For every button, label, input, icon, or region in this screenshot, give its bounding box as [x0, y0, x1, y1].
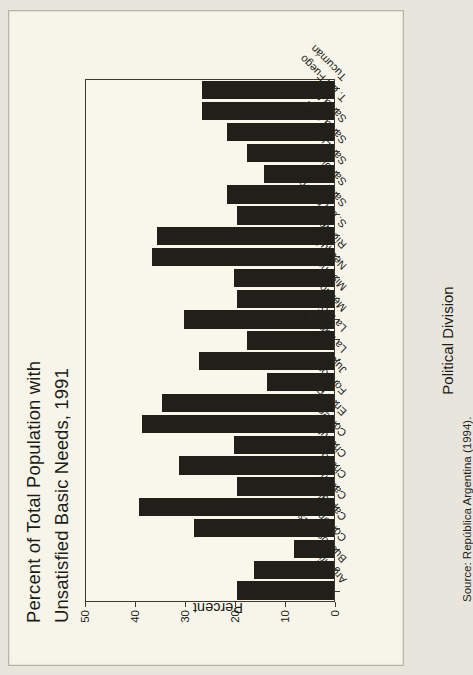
bar-cell: [86, 122, 334, 143]
bar-cell: [86, 497, 334, 518]
x-axis: Political Division ArgentinaBuenos Aires…: [335, 79, 455, 602]
y-axis-title: Percent: [153, 600, 283, 616]
x-tick: [335, 360, 340, 361]
bar: [152, 248, 335, 266]
x-tick: [335, 193, 340, 194]
bar-cell: [86, 455, 334, 476]
y-tick: [335, 602, 336, 607]
bar-cell: [86, 434, 334, 455]
x-tick: [335, 465, 340, 466]
x-tick: [335, 130, 340, 131]
x-tick: [335, 381, 340, 382]
chart-title-line-2: Unsatisfied Basic Needs, 1991: [51, 368, 73, 623]
bar-cell: [86, 268, 334, 289]
bar: [237, 581, 335, 599]
bar-cell: [86, 393, 334, 414]
x-tick: [335, 88, 340, 89]
x-tick: [335, 256, 340, 257]
x-tick: [335, 528, 340, 529]
bar-cell: [86, 226, 334, 247]
bar-cell: [86, 309, 334, 330]
bar-cell: [86, 330, 334, 351]
y-tick-label: 40: [129, 610, 141, 623]
bar-cell: [86, 476, 334, 497]
y-tick-label: 50: [79, 610, 91, 623]
x-tick: [335, 151, 340, 152]
bar-cell: [86, 580, 334, 601]
bar-cell: [86, 247, 334, 268]
bar-cell: [86, 205, 334, 226]
y-tick-label: 0: [329, 610, 341, 616]
y-tick: [285, 602, 286, 607]
bar-cell: [86, 372, 334, 393]
bar-cell: [86, 413, 334, 434]
bar-cell: [86, 559, 334, 580]
bar-cell: [86, 142, 334, 163]
x-tick: [335, 235, 340, 236]
source-note: Source: República Argentina (1994).: [461, 417, 473, 602]
chart-title-line-1: Percent of Total Population with: [23, 361, 45, 623]
x-tick: [335, 172, 340, 173]
x-tick: [335, 109, 340, 110]
y-tick: [85, 602, 86, 607]
bar-cell: [86, 538, 334, 559]
bar: [157, 227, 335, 245]
x-tick: [335, 298, 340, 299]
x-axis-title: Political Division: [439, 79, 456, 602]
x-tick: [335, 340, 340, 341]
x-tick: [335, 507, 340, 508]
x-tick: [335, 214, 340, 215]
x-tick: [335, 444, 340, 445]
x-tick: [335, 319, 340, 320]
bar-cell: [86, 163, 334, 184]
bar-cell: [86, 288, 334, 309]
bar-cell: [86, 101, 334, 122]
bar: [142, 415, 335, 433]
x-tick: [335, 549, 340, 550]
x-tick: [335, 402, 340, 403]
x-tick: [335, 423, 340, 424]
x-tick: [335, 277, 340, 278]
x-tick: [335, 570, 340, 571]
x-tick: [335, 486, 340, 487]
scanned-page: Percent of Total Population with Unsatis…: [8, 10, 404, 666]
bar-cell: [86, 351, 334, 372]
chart-figure: Percent of Total Population with Unsatis…: [9, 11, 403, 639]
y-tick: [135, 602, 136, 607]
bar-cell: [86, 80, 334, 101]
x-tick: [335, 591, 340, 592]
